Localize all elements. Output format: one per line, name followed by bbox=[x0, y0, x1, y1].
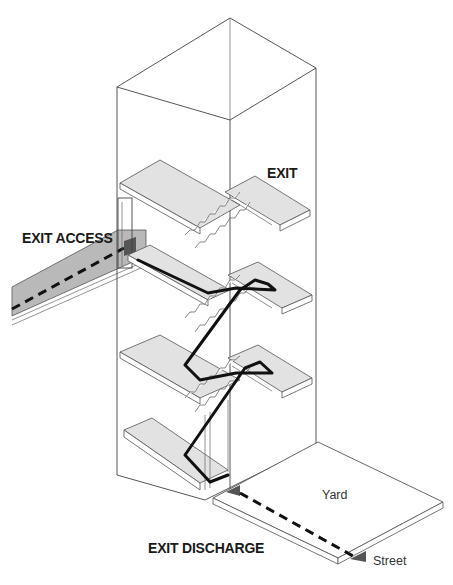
landing-floor-3 bbox=[128, 245, 230, 306]
label-exit-discharge: EXIT DISCHARGE bbox=[148, 540, 264, 556]
label-yard: Yard bbox=[322, 488, 348, 502]
egress-diagram: EXIT ACCESS EXIT EXIT DISCHARGE Yard Str… bbox=[0, 0, 453, 585]
landing-floor-1 bbox=[124, 418, 228, 490]
label-street: Street bbox=[373, 554, 407, 568]
label-exit-access: EXIT ACCESS bbox=[22, 230, 113, 246]
label-exit: EXIT bbox=[267, 165, 298, 181]
stair-flights bbox=[185, 192, 272, 490]
landing-floor-4 bbox=[120, 160, 240, 234]
